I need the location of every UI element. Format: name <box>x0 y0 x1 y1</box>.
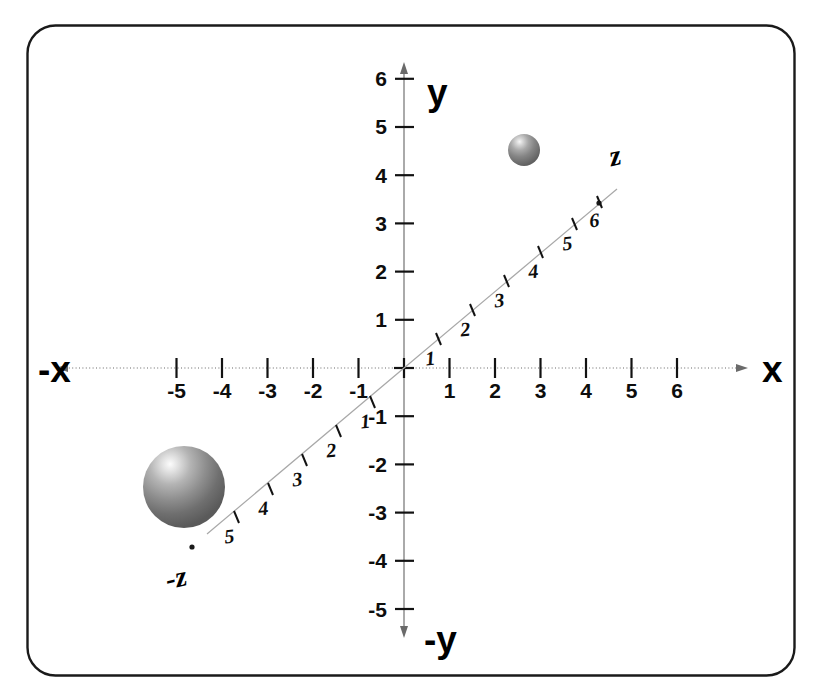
y-tick-label--1: -1 <box>368 405 387 428</box>
figure-canvas: -5 -4 -3 -2 -1 1 2 3 4 5 6 -x x <box>0 0 817 694</box>
x-tick-label-4: 4 <box>580 379 592 402</box>
x-tick-label-6: 6 <box>671 379 683 402</box>
x-tick-label--1: -1 <box>349 379 368 402</box>
x-tick-label--4: -4 <box>213 379 232 402</box>
y-tick-label--2: -2 <box>368 453 387 476</box>
x-tick-label-3: 3 <box>535 379 547 402</box>
y-tick-label-3: 3 <box>375 212 387 235</box>
x-tick-label--2: -2 <box>304 379 323 402</box>
x-axis-negative-label: -x <box>38 349 71 390</box>
x-tick-label-5: 5 <box>626 379 638 402</box>
y-tick-label--3: -3 <box>368 501 387 524</box>
y-axis-positive-label: y <box>427 72 448 113</box>
x-tick-label--3: -3 <box>258 379 277 402</box>
x-tick-label--5: -5 <box>167 379 186 402</box>
y-tick-label-6: 6 <box>375 67 387 90</box>
coordinate-axes-diagram: -5 -4 -3 -2 -1 1 2 3 4 5 6 -x x <box>0 0 817 694</box>
x-axis-positive-label: x <box>762 349 783 390</box>
x-tick-label-2: 2 <box>489 379 501 402</box>
y-axis-negative-label: -y <box>424 619 457 660</box>
y-tick-label-1: 1 <box>375 308 387 331</box>
z-tick-label--3: 3 <box>290 468 303 491</box>
x-tick-label-1: 1 <box>444 379 456 402</box>
z-tick-label--4: 4 <box>256 497 269 520</box>
z-tick-label-3: 3 <box>492 289 505 312</box>
y-tick-label--4: -4 <box>368 549 387 572</box>
z-axis-negative-end-dot <box>189 544 194 549</box>
y-tick-label--5: -5 <box>368 598 387 621</box>
y-tick-label-2: 2 <box>375 260 387 283</box>
sphere-small <box>508 134 540 166</box>
z-tick-label-2: 2 <box>458 318 471 341</box>
z-tick-label-4: 4 <box>526 260 539 283</box>
y-tick-label-4: 4 <box>375 164 387 187</box>
z-tick-label--2: 2 <box>324 439 337 462</box>
sphere-large <box>143 446 225 528</box>
diagram-frame <box>28 26 795 676</box>
y-tick-label-5: 5 <box>375 115 387 138</box>
